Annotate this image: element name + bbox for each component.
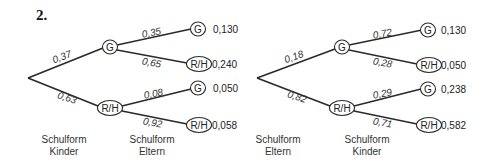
level2-label-line1: Schulform xyxy=(129,134,174,145)
prob-g-g: 0,35 xyxy=(141,25,163,40)
level2-label-line1: Schulform xyxy=(344,134,389,145)
svg-text:R/H: R/H xyxy=(333,103,350,114)
prob-root-rh: 0,82 xyxy=(286,88,308,105)
svg-text:R/H: R/H xyxy=(420,60,437,71)
leaf-value-rh-g: 0,050 xyxy=(213,83,238,94)
exercise-number: 2. xyxy=(36,7,48,23)
leaf-value-rh-g: 0,238 xyxy=(441,84,466,95)
leaf-rh-g: G xyxy=(421,82,436,96)
prob-g-rh: 0,65 xyxy=(141,55,163,69)
svg-text:R/H: R/H xyxy=(190,59,207,70)
probability-tree-diagrams: 2. G R/H G R/H G xyxy=(0,0,484,162)
prob-root-rh: 0,63 xyxy=(56,89,78,106)
leaf-value-g-g: 0,130 xyxy=(213,24,238,35)
level2-label-line2: Eltern xyxy=(139,146,165,157)
prob-rh-g: 0,08 xyxy=(143,86,165,101)
leaf-value-g-rh: 0,050 xyxy=(441,60,466,71)
tree-2: G R/H G R/H G R/H 0,18 0,82 0,72 0,28 0,… xyxy=(255,23,466,157)
level1-label-line2: Kinder xyxy=(50,146,80,157)
leaf-rh-rh: R/H xyxy=(417,118,442,133)
svg-text:R/H: R/H xyxy=(101,103,118,114)
leaf-g-rh: R/H xyxy=(417,58,442,73)
prob-rh-rh: 0,92 xyxy=(142,115,164,129)
leaf-value-rh-rh: 0,058 xyxy=(212,120,237,131)
node-g-level1: G xyxy=(335,40,350,54)
prob-g-g: 0,72 xyxy=(372,26,394,41)
prob-root-g: 0,18 xyxy=(283,48,305,65)
prob-root-g: 0,37 xyxy=(51,48,74,65)
svg-text:G: G xyxy=(424,84,432,95)
leaf-rh-rh: R/H xyxy=(187,118,212,133)
node-rh-level1: R/H xyxy=(330,101,355,116)
leaf-g-rh: R/H xyxy=(187,57,212,72)
svg-text:G: G xyxy=(424,25,432,36)
svg-text:G: G xyxy=(194,83,202,94)
level1-label-line1: Schulform xyxy=(255,134,300,145)
svg-text:R/H: R/H xyxy=(420,120,437,131)
prob-rh-rh: 0,71 xyxy=(372,115,393,129)
svg-text:G: G xyxy=(106,42,114,53)
leaf-g-g: G xyxy=(421,23,436,37)
svg-text:G: G xyxy=(338,42,346,53)
level1-label-line2: Eltern xyxy=(265,146,291,157)
node-rh-level1: R/H xyxy=(98,101,123,116)
prob-g-rh: 0,28 xyxy=(372,55,394,69)
leaf-value-g-g: 0,130 xyxy=(441,25,466,36)
level1-label-line1: Schulform xyxy=(41,134,86,145)
svg-text:R/H: R/H xyxy=(190,120,207,131)
leaf-value-g-rh: 0,240 xyxy=(212,59,237,70)
node-g-level1: G xyxy=(103,40,118,54)
tree-1: G R/H G R/H G R/H 0,37 0,63 0,35 0,65 0,… xyxy=(28,22,238,157)
level2-label-line2: Kinder xyxy=(353,146,383,157)
leaf-rh-g: G xyxy=(191,81,206,95)
leaf-g-g: G xyxy=(191,22,206,36)
leaf-value-rh-rh: 0,582 xyxy=(441,120,466,131)
svg-text:G: G xyxy=(194,24,202,35)
prob-rh-g: 0,29 xyxy=(372,86,394,101)
